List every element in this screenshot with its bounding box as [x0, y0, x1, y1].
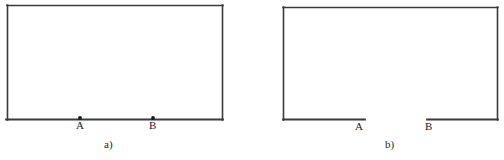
figure-a-caption: a)	[104, 139, 113, 150]
figure-b-point-b-label: B	[425, 121, 432, 132]
figure-b-group	[283, 7, 498, 120]
figure-b-point-a-label: A	[355, 121, 363, 132]
figure-canvas: A B a) A B b)	[0, 0, 504, 160]
figure-b-caption: b)	[385, 139, 394, 150]
figure-vector-graphic	[0, 0, 504, 160]
figure-a-group	[6, 5, 223, 120]
figure-a-point-a-label: A	[76, 120, 84, 131]
figure-a-point-b-label: B	[149, 120, 156, 131]
